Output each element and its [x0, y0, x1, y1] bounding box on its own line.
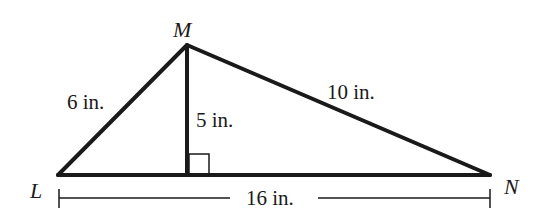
vertex-label-n: N	[503, 174, 520, 199]
measure-altitude: 5 in.	[196, 108, 233, 132]
right-angle-marker	[189, 154, 209, 175]
measure-ln: 16 in.	[246, 186, 294, 210]
vertex-label-m: M	[172, 17, 193, 42]
measure-lm: 6 in.	[67, 90, 104, 114]
triangle-diagram: M L N 6 in. 5 in. 10 in. 16 in.	[0, 0, 552, 220]
measure-mn: 10 in.	[327, 80, 375, 104]
vertex-label-l: L	[29, 178, 42, 203]
